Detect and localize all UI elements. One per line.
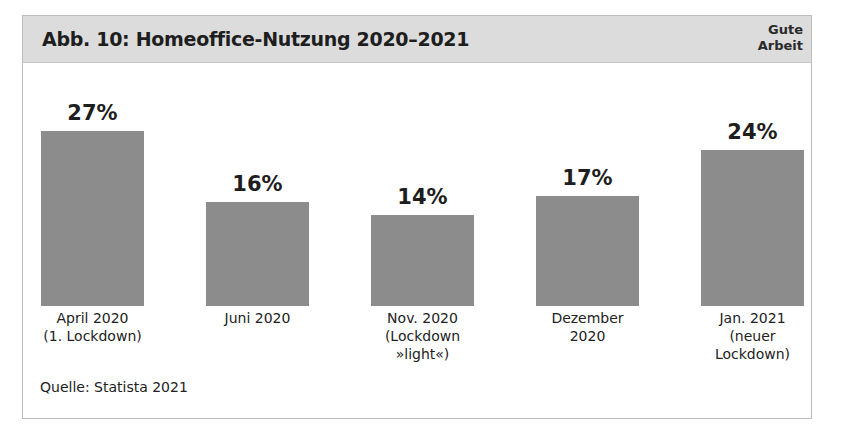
badge-line-1: Gute: [758, 22, 803, 38]
bar: [536, 196, 639, 307]
chart-title: Abb. 10: Homeoffice-Nutzung 2020–2021: [42, 28, 469, 50]
bar: [206, 202, 309, 306]
chart-header: Abb. 10: Homeoffice-Nutzung 2020–2021 Gu…: [23, 16, 811, 63]
bar-value-label: 27%: [23, 101, 163, 125]
category-label: Nov. 2020 (Lockdown »light«): [353, 309, 493, 363]
bar: [701, 150, 804, 306]
badge-line-2: Arbeit: [758, 38, 803, 54]
bar-value-label: 14%: [353, 185, 493, 209]
bar-value-label: 17%: [518, 166, 658, 190]
bar-value-label: 16%: [188, 172, 328, 196]
bar: [41, 131, 144, 307]
category-label: Juni 2020: [188, 309, 328, 327]
category-label: April 2020 (1. Lockdown): [23, 309, 163, 345]
bar: [371, 215, 474, 306]
source-note: Quelle: Statista 2021: [40, 379, 188, 395]
category-label: Jan. 2021 (neuer Lockdown): [683, 309, 823, 363]
chart-figure: Abb. 10: Homeoffice-Nutzung 2020–2021 Gu…: [22, 15, 812, 419]
source-badge: Gute Arbeit: [758, 22, 803, 54]
bar-value-label: 24%: [683, 120, 823, 144]
category-label: Dezember 2020: [518, 309, 658, 345]
